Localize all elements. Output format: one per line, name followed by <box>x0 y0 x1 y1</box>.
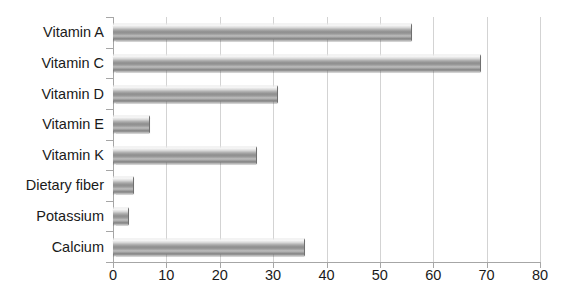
x-axis-tick-label: 80 <box>532 268 548 283</box>
plot-area <box>113 17 540 262</box>
x-axis-tick-label: 10 <box>158 268 174 283</box>
bar <box>113 116 150 133</box>
bar-row <box>113 170 540 201</box>
x-axis-tick-label: 20 <box>212 268 228 283</box>
x-axis-tick-label: 70 <box>479 268 495 283</box>
bar <box>113 54 481 71</box>
x-axis-tick-label: 50 <box>372 268 388 283</box>
bar <box>113 85 278 102</box>
y-axis-tick <box>106 48 113 49</box>
y-axis-tick <box>106 170 113 171</box>
category-label: Potassium <box>4 209 104 224</box>
bar-row <box>113 231 540 262</box>
category-label: Dietary fiber <box>4 178 104 193</box>
x-axis-tick-label: 30 <box>265 268 281 283</box>
y-axis-tick <box>106 109 113 110</box>
bar <box>113 146 257 163</box>
y-axis-tick <box>106 201 113 202</box>
bar-chart: Vitamin AVitamin CVitamin DVitamin EVita… <box>0 0 561 307</box>
x-axis-tick-label: 0 <box>109 268 117 283</box>
y-axis-tick <box>106 262 113 263</box>
bar-row <box>113 201 540 232</box>
category-label: Vitamin A <box>4 25 104 40</box>
category-label: Vitamin C <box>4 56 104 71</box>
bar <box>113 24 412 41</box>
category-label: Vitamin E <box>4 117 104 132</box>
y-axis-category-labels: Vitamin AVitamin CVitamin DVitamin EVita… <box>0 17 104 262</box>
bar-row <box>113 109 540 140</box>
bar-rows <box>113 17 540 262</box>
bar <box>113 177 134 194</box>
category-label: Vitamin K <box>4 148 104 163</box>
bar <box>113 208 129 225</box>
y-axis-tick <box>106 78 113 79</box>
category-label: Calcium <box>4 240 104 255</box>
y-axis-tick <box>106 140 113 141</box>
bar-row <box>113 48 540 79</box>
bar-row <box>113 140 540 171</box>
bar-row <box>113 78 540 109</box>
y-axis-tick <box>106 231 113 232</box>
bar <box>113 238 305 255</box>
category-label: Vitamin D <box>4 87 104 102</box>
x-axis-tick-label: 60 <box>425 268 441 283</box>
y-axis-tick <box>106 17 113 18</box>
x-axis-tick-label: 40 <box>318 268 334 283</box>
gridline-80 <box>540 17 541 262</box>
bar-row <box>113 17 540 48</box>
